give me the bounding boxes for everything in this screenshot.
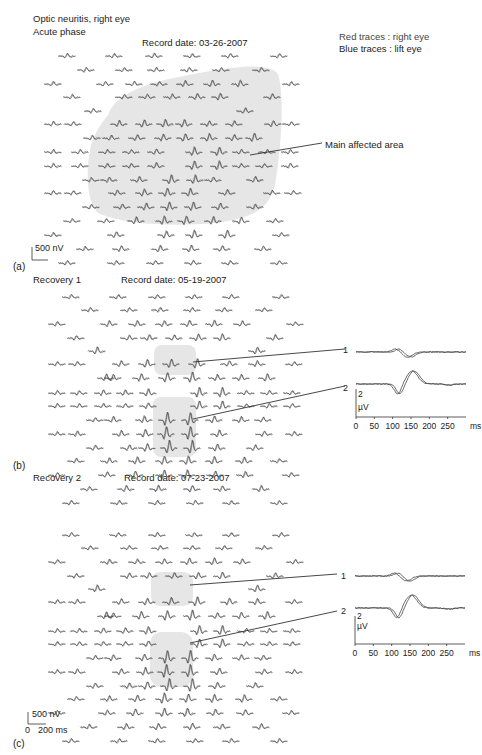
- mferg-trace: [126, 81, 143, 86]
- mferg-trace: [49, 642, 66, 646]
- mferg-trace: [137, 430, 154, 437]
- mferg-trace: [184, 486, 201, 492]
- mferg-trace: [207, 709, 224, 715]
- mferg-trace: [233, 417, 250, 423]
- mferg-trace: [78, 68, 95, 72]
- mferg-trace: [256, 546, 273, 550]
- mferg-trace: [113, 431, 130, 436]
- mferg-trace: [180, 694, 197, 703]
- mferg-trace: [211, 430, 228, 437]
- mferg-trace: [133, 612, 150, 620]
- mferg-trace: [112, 430, 129, 436]
- mferg-trace: [283, 473, 300, 478]
- mferg-trace: [59, 261, 76, 265]
- mferg-trace: [238, 390, 255, 394]
- mferg-trace: [156, 470, 173, 479]
- mferg-trace: [214, 401, 231, 409]
- mferg-trace: [260, 641, 277, 646]
- mferg-trace: [206, 321, 223, 327]
- panel-b-inset-trace2-left-eye: [356, 371, 466, 394]
- mferg-trace: [111, 739, 128, 743]
- panel-b-pointer-1: [193, 349, 345, 362]
- mferg-trace: [236, 457, 253, 463]
- mferg-trace: [248, 598, 265, 604]
- mferg-trace: [214, 639, 231, 648]
- mferg-trace: [286, 432, 303, 436]
- mferg-trace: [140, 389, 157, 396]
- mferg-trace: [105, 655, 122, 661]
- panel-a-scale-bar: [32, 247, 48, 260]
- mferg-trace: [105, 417, 122, 423]
- mferg-trace: [247, 683, 264, 688]
- panel-b-inset-trace1-right-eye: [356, 349, 466, 357]
- mferg-trace: [259, 612, 276, 620]
- mferg-trace: [261, 629, 278, 633]
- panel-c-pointer-1: [190, 574, 337, 585]
- mferg-trace: [49, 711, 66, 715]
- mferg-trace: [65, 191, 82, 195]
- mferg-trace: [271, 459, 288, 463]
- panel-c-inset-trace1-right-eye: [355, 573, 465, 581]
- mferg-trace: [117, 642, 134, 647]
- mferg-trace: [206, 457, 223, 464]
- mferg-trace: [127, 471, 144, 478]
- mferg-trace: [206, 558, 223, 565]
- mferg-trace: [207, 471, 224, 478]
- mferg-trace: [99, 472, 116, 477]
- mferg-trace: [222, 54, 239, 59]
- mferg-trace: [181, 558, 198, 565]
- mferg-trace: [238, 642, 255, 646]
- mferg-trace: [156, 693, 173, 703]
- mferg-trace: [221, 260, 238, 265]
- mferg-trace: [152, 246, 169, 252]
- mferg-trace: [219, 230, 236, 238]
- panel-c-inset-trace2-left-eye: [355, 595, 465, 618]
- mferg-trace: [101, 458, 118, 464]
- mferg-trace: [214, 625, 231, 634]
- mferg-trace: [85, 109, 102, 113]
- mferg-trace: [139, 626, 156, 633]
- mferg-trace: [179, 470, 196, 478]
- mferg-trace: [255, 656, 272, 661]
- mferg-trace: [89, 585, 106, 591]
- mferg-trace: [191, 388, 208, 398]
- mferg-trace: [184, 723, 201, 730]
- panel-c-scale-bar: [28, 712, 46, 724]
- panel-b-shade-region-1: [154, 345, 196, 375]
- mferg-trace: [63, 533, 80, 537]
- mferg-trace: [101, 696, 118, 702]
- mferg-trace: [71, 391, 88, 395]
- mferg-trace: [108, 261, 125, 265]
- mferg-trace: [135, 416, 152, 423]
- mferg-trace: [117, 390, 134, 395]
- mferg-trace: [246, 682, 263, 688]
- mferg-trace: [261, 391, 278, 395]
- mferg-trace: [183, 245, 200, 252]
- mferg-trace: [139, 360, 156, 368]
- mferg-trace: [259, 374, 276, 381]
- mferg-trace: [44, 150, 61, 154]
- mferg-trace: [286, 670, 303, 674]
- mferg-trace: [110, 533, 127, 538]
- panel-b-inset-trace2-right-eye: [356, 371, 466, 394]
- mferg-trace: [191, 626, 208, 635]
- panel-c-inset-trace2-right-eye: [355, 595, 465, 618]
- mferg-trace: [127, 709, 144, 716]
- mferg-trace: [81, 724, 98, 728]
- mferg-trace: [267, 335, 284, 341]
- mferg-trace: [237, 710, 254, 716]
- mferg-trace: [81, 487, 98, 491]
- mferg-trace-arrays: [0, 0, 482, 755]
- panel-a-affected-area-shade: [88, 67, 282, 225]
- mferg-trace: [64, 219, 81, 223]
- mferg-trace: [89, 347, 106, 354]
- mferg-trace: [69, 670, 86, 674]
- mferg-trace: [190, 334, 207, 340]
- mferg-trace: [45, 191, 62, 195]
